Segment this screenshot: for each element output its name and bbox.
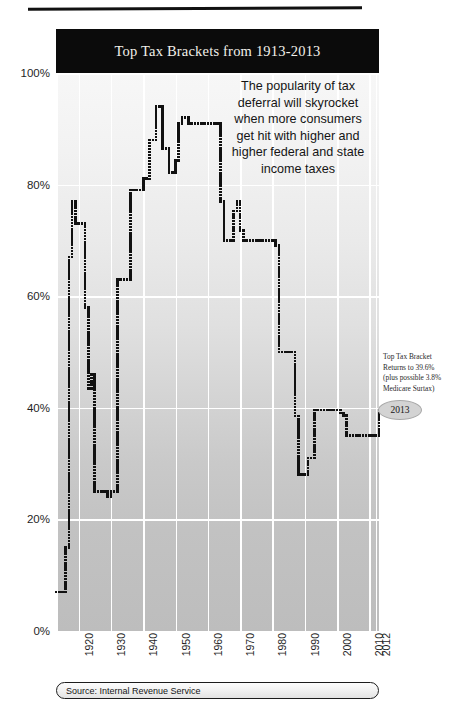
- data-point: [261, 239, 264, 242]
- data-point: [68, 330, 71, 333]
- data-point: [116, 450, 119, 453]
- gridline-horizontal: [56, 296, 379, 298]
- data-point: [116, 390, 119, 393]
- data-point: [371, 434, 374, 437]
- data-point: [68, 364, 71, 367]
- data-point: [232, 236, 235, 239]
- data-point: [129, 204, 132, 207]
- data-point: [116, 478, 119, 481]
- data-point: [68, 281, 71, 284]
- data-point: [132, 189, 135, 192]
- gridline-vertical: [143, 73, 145, 631]
- data-point: [174, 162, 177, 165]
- data-point: [307, 473, 310, 476]
- data-point: [116, 353, 119, 356]
- data-point: [90, 387, 93, 390]
- data-point: [116, 297, 119, 300]
- data-point: [68, 534, 71, 537]
- data-point: [155, 130, 158, 133]
- data-point: [90, 380, 93, 383]
- data-point: [129, 238, 132, 241]
- data-point: [68, 342, 71, 345]
- data-point: [313, 444, 316, 447]
- data-point: [313, 422, 316, 425]
- data-point: [313, 450, 316, 453]
- chart-figure: Top Tax Brackets from 1913-2013 0%20%40%…: [0, 0, 469, 725]
- data-point: [68, 429, 71, 432]
- data-point: [103, 490, 106, 493]
- data-point: [68, 475, 71, 478]
- data-point: [155, 114, 158, 117]
- data-point: [116, 334, 119, 337]
- data-point: [232, 216, 235, 219]
- y-tick-label: 100%: [4, 67, 50, 79]
- data-point: [239, 207, 242, 210]
- data-point: [252, 239, 255, 242]
- data-point: [68, 277, 71, 280]
- data-point: [68, 345, 71, 348]
- data-point: [345, 414, 348, 417]
- data-point: [155, 139, 158, 142]
- data-point: [242, 233, 245, 236]
- data-point: [307, 460, 310, 463]
- data-point: [362, 434, 365, 437]
- data-point: [258, 239, 261, 242]
- data-point: [68, 367, 71, 370]
- data-point: [68, 318, 71, 321]
- data-point: [68, 321, 71, 324]
- data-point: [71, 256, 74, 259]
- data-point: [116, 471, 119, 474]
- data-point: [116, 468, 119, 471]
- year-badge-2013: 2013: [378, 400, 422, 420]
- data-point: [116, 456, 119, 459]
- data-point: [113, 490, 116, 493]
- data-point: [68, 540, 71, 543]
- data-point: [116, 350, 119, 353]
- data-point: [177, 137, 180, 140]
- data-point: [278, 351, 281, 354]
- data-point: [245, 239, 248, 242]
- data-point: [374, 434, 377, 437]
- data-point: [313, 425, 316, 428]
- data-point: [81, 222, 84, 225]
- data-point: [378, 434, 381, 437]
- bracket-return-annotation: Top Tax BracketReturns to 39.6%(plus pos…: [383, 352, 467, 394]
- data-point: [93, 490, 96, 493]
- data-point: [232, 210, 235, 213]
- data-point: [152, 139, 155, 142]
- data-point: [239, 216, 242, 219]
- data-point: [77, 222, 80, 225]
- data-point: [142, 183, 145, 186]
- data-point: [148, 178, 151, 181]
- data-point: [116, 278, 119, 281]
- data-point: [129, 244, 132, 247]
- data-point: [116, 284, 119, 287]
- data-point: [64, 575, 67, 578]
- data-point: [242, 236, 245, 239]
- source-label: Source: Internal Revenue Service: [66, 686, 201, 696]
- data-point: [116, 400, 119, 403]
- data-point: [68, 423, 71, 426]
- data-point: [129, 263, 132, 266]
- data-point: [329, 409, 332, 412]
- data-point: [135, 189, 138, 192]
- data-point: [229, 239, 232, 242]
- data-point: [129, 201, 132, 204]
- data-point: [116, 347, 119, 350]
- data-point: [116, 356, 119, 359]
- data-point: [148, 160, 151, 163]
- data-point: [232, 239, 235, 242]
- data-point: [116, 384, 119, 387]
- data-point: [68, 432, 71, 435]
- data-point: [68, 531, 71, 534]
- data-point: [378, 415, 381, 418]
- data-point: [197, 122, 200, 125]
- data-point: [64, 565, 67, 568]
- data-point: [307, 467, 310, 470]
- data-point: [68, 327, 71, 330]
- data-point: [332, 409, 335, 412]
- data-point: [129, 266, 132, 269]
- data-point: [249, 239, 252, 242]
- data-point: [236, 200, 239, 203]
- data-point: [64, 584, 67, 587]
